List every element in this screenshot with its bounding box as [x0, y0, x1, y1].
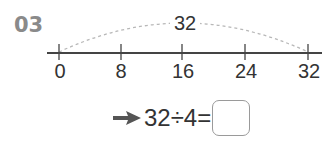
answer-box[interactable] [212, 100, 250, 136]
tick-label-0: 0 [54, 60, 65, 83]
tick-label-8: 8 [115, 60, 126, 83]
arc-label: 32 [170, 12, 200, 35]
equation-text: 32÷4= [144, 104, 211, 132]
arrow-right-icon [112, 108, 142, 128]
equation-row: 32÷4= [112, 100, 250, 136]
tick-label-24: 24 [235, 60, 257, 83]
tick-label-32: 32 [298, 60, 320, 83]
tick-label-16: 16 [172, 60, 194, 83]
